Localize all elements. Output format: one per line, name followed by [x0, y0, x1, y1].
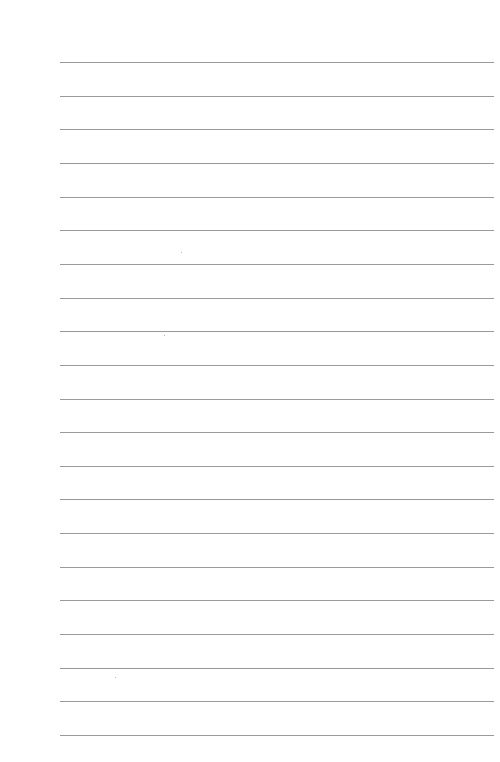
paper-speck — [115, 677, 116, 678]
ruled-line — [60, 600, 494, 601]
ruled-line — [60, 230, 494, 231]
ruled-line — [60, 62, 494, 63]
ruled-line — [60, 399, 494, 400]
paper-speck — [181, 252, 182, 253]
ruled-line — [60, 466, 494, 467]
ruled-line — [60, 634, 494, 635]
paper-speck — [164, 335, 165, 336]
ruled-line — [60, 264, 494, 265]
ruled-line — [60, 533, 494, 534]
ruled-line — [60, 701, 494, 702]
ruled-line — [60, 96, 494, 97]
lined-paper-page — [0, 0, 500, 762]
ruled-line — [60, 298, 494, 299]
ruled-line — [60, 331, 494, 332]
ruled-line — [60, 499, 494, 500]
ruled-line — [60, 567, 494, 568]
ruled-line — [60, 735, 494, 736]
ruled-line — [60, 432, 494, 433]
ruled-line — [60, 129, 494, 130]
ruled-line — [60, 197, 494, 198]
ruled-line — [60, 365, 494, 366]
ruled-line — [60, 668, 494, 669]
ruled-line — [60, 163, 494, 164]
